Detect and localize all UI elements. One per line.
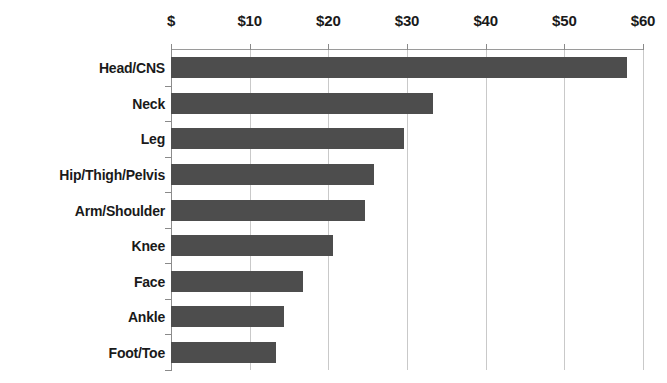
bar <box>171 164 374 185</box>
y-axis-category-label: Leg <box>6 131 171 147</box>
gridline <box>486 50 487 370</box>
bar <box>171 57 627 78</box>
y-axis-category-label: Arm/Shoulder <box>6 203 171 219</box>
x-axis-tick-label: $40 <box>473 12 497 30</box>
x-axis-tick-label: $30 <box>395 12 419 30</box>
x-axis-tick-label: $50 <box>552 12 576 30</box>
gridline <box>643 50 644 370</box>
bar <box>171 342 276 363</box>
x-axis-tick-label: $20 <box>316 12 340 30</box>
gridline <box>564 50 565 370</box>
y-axis-category-label: Knee <box>6 238 171 254</box>
bar <box>171 93 433 114</box>
plot-area <box>171 50 643 370</box>
y-axis-category-label: Face <box>6 274 171 290</box>
y-axis-category-label: Ankle <box>6 309 171 325</box>
y-axis-category-label: Foot/Toe <box>6 345 171 361</box>
bar <box>171 235 333 256</box>
y-axis-category-label: Neck <box>6 96 171 112</box>
bar <box>171 128 404 149</box>
y-axis-category-label: Head/CNS <box>6 60 171 76</box>
y-axis-category-label: Hip/Thigh/Pelvis <box>6 167 171 183</box>
bar <box>171 200 365 221</box>
bar-chart: $$10$20$30$40$50$60 Head/CNSNeckLegHip/T… <box>0 0 667 383</box>
x-axis-tick-label: $60 <box>631 12 655 30</box>
y-axis-category-labels: Head/CNSNeckLegHip/Thigh/PelvisArm/Shoul… <box>0 0 171 383</box>
bar <box>171 306 284 327</box>
x-axis-tick-label: $10 <box>237 12 261 30</box>
bar <box>171 271 303 292</box>
